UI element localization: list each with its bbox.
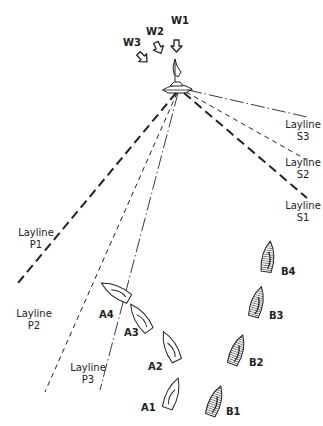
wind-label-w1: W1 <box>171 15 189 26</box>
layline-s1-id: S1 <box>297 212 310 223</box>
layline-p2-id: P2 <box>28 320 40 331</box>
boat-a4-label: A4 <box>99 309 114 320</box>
layline-s1 <box>184 93 307 198</box>
boat-a1-label: A1 <box>141 402 156 413</box>
boat-a4-icon <box>98 278 132 304</box>
layline-p2-label: Layline <box>16 308 52 319</box>
wind-label-w2: W2 <box>146 26 164 37</box>
boat-a2-label: A2 <box>148 361 163 372</box>
boat-b2-label: B2 <box>249 357 264 368</box>
layline-p3-id: P3 <box>82 374 94 385</box>
wind-arrow-w2-icon <box>151 40 166 56</box>
boat-b1-label: B1 <box>226 406 241 417</box>
wind-label-w3: W3 <box>123 37 141 48</box>
layline-p1-label: Layline <box>18 227 54 238</box>
layline-s2-label: Layline <box>285 157 321 168</box>
layline-diagram: W1 W2 W3 Layline S3 Layline S2 Layline S… <box>0 0 323 426</box>
boat-b2-icon <box>227 333 249 366</box>
boat-a1-icon <box>162 376 184 410</box>
boat-a2-icon <box>158 329 182 363</box>
windward-mark-icon <box>162 59 193 93</box>
wind-arrow-w1-icon <box>171 40 182 52</box>
wind-arrow-w3-icon <box>135 50 151 66</box>
layline-p1-id: P1 <box>30 239 42 250</box>
boat-b1-icon <box>205 384 227 417</box>
boat-b4-label: B4 <box>281 266 296 277</box>
layline-p1 <box>18 93 176 283</box>
boat-b4-icon <box>260 240 276 272</box>
layline-s3-id: S3 <box>297 131 310 142</box>
layline-s1-label: Layline <box>285 200 321 211</box>
layline-s3-label: Layline <box>285 119 321 130</box>
layline-s2-id: S2 <box>297 169 310 180</box>
layline-p3-label: Layline <box>70 362 106 373</box>
boat-b3-icon <box>248 285 267 318</box>
boat-a3-label: A3 <box>124 327 139 338</box>
boat-b3-label: B3 <box>269 310 284 321</box>
